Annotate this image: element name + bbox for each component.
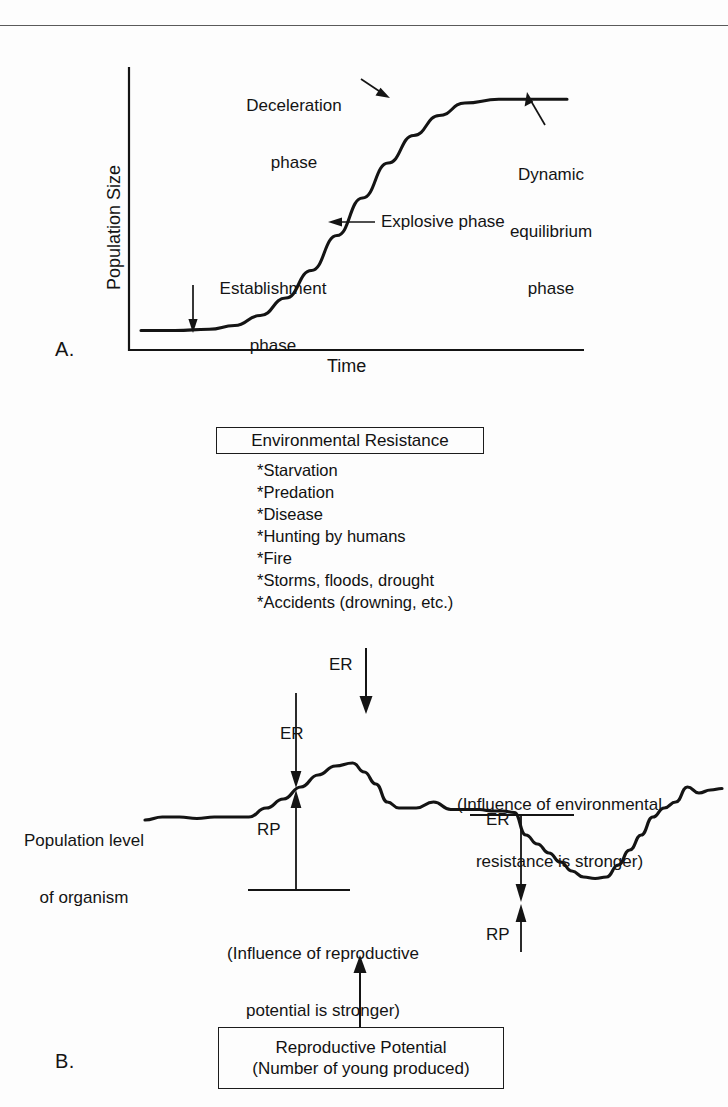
environmental-resistance-list: *Starvation *Predation *Disease *Hunting… [257,460,453,614]
trough-rp-label: RP [486,925,510,944]
list-item: *Accidents (drowning, etc.) [257,592,453,614]
dynamic-equilibrium-phase-label: Dynamic equilibrium phase [486,127,616,336]
list-item: *Predation [257,482,453,504]
panel-b-letter: B. [55,1050,75,1072]
environmental-resistance-box[interactable]: Environmental Resistance [216,427,484,454]
reproductive-potential-box[interactable]: Reproductive Potential (Number of young … [218,1027,504,1089]
establishment-phase-label: Establishment phase [213,241,333,393]
explosive-phase-arrow [328,217,375,226]
deceleration-phase-label: Deceleration phase [219,58,369,210]
establishment-phase-arrow [188,285,197,333]
peak-er-label: ER [280,724,304,743]
list-item: *Hunting by humans [257,526,453,548]
dynamic-equilibrium-arrow [525,92,545,125]
peak-rp-label: RP [257,820,281,839]
list-item: *Disease [257,504,453,526]
list-item: *Fire [257,548,453,570]
list-item: *Starvation [257,460,453,482]
figure-page: A. Population Size Time [0,0,728,1107]
environmental-resistance-box-title: Environmental Resistance [251,431,448,451]
trough-rp-arrow [516,904,527,952]
peak-rp-arrow [248,790,350,890]
list-item: *Storms, floods, drought [257,570,453,592]
trough-er-label: ER [486,810,510,829]
reproductive-potential-line2: (Number of young produced) [252,1058,469,1079]
reproductive-potential-line1: Reproductive Potential [275,1037,446,1058]
trough-caption: (Influence of environmental resistance i… [432,757,687,909]
